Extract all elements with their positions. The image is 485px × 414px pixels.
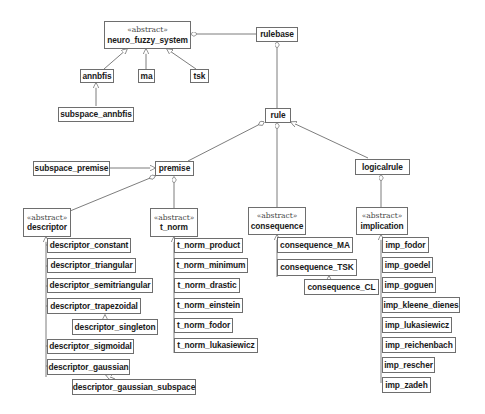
class-t-norm-drastic[interactable]: t_norm_drastic — [174, 278, 240, 293]
class-imp-lukasiewicz[interactable]: imp_lukasiewicz — [382, 317, 452, 333]
class-name: t_norm_lukasiewicz — [177, 341, 254, 349]
class-name: t_norm_einstein — [177, 301, 240, 309]
edge-annbfis-nfs — [104, 49, 127, 69]
class-name: imp_zadeh — [385, 381, 427, 389]
class-name: consequence — [251, 222, 303, 230]
class-imp-kleene-dienes[interactable]: imp_kleene_dienes — [382, 297, 460, 313]
class-name: descriptor_sigmoidal — [49, 342, 132, 350]
class-name: consequence_MA — [280, 241, 350, 249]
class-name: descriptor_semitriangular — [50, 281, 151, 289]
class-name: consequence_TSK — [280, 263, 353, 271]
class-name: t_norm_minimum — [177, 261, 246, 269]
class-t-norm-einstein[interactable]: t_norm_einstein — [174, 298, 243, 313]
stereotype-label: «abstract» — [154, 214, 195, 222]
class-consequence[interactable]: «abstract» consequence — [248, 207, 306, 235]
class-tsk[interactable]: tsk — [190, 69, 209, 83]
class-name: implication — [360, 222, 403, 230]
class-name: imp_kleene_dienes — [383, 301, 458, 309]
stereotype-label: «abstract» — [257, 212, 298, 220]
edge-tsk-nfs — [167, 49, 196, 69]
class-imp-goedel[interactable]: imp_goedel — [382, 257, 433, 273]
edge-logicalrule-rule — [291, 122, 368, 158]
class-name: descriptor_gaussian_subspace — [73, 383, 195, 391]
class-name: subspace_premise — [35, 164, 109, 172]
class-name: descriptor_trapezoidal — [50, 302, 138, 310]
class-logicalrule[interactable]: logicalrule — [355, 159, 410, 175]
class-name: rulebase — [260, 30, 294, 38]
class-name: imp_goguen — [385, 281, 434, 289]
class-descriptor-triangular[interactable]: descriptor_triangular — [47, 258, 136, 273]
class-t-norm-product[interactable]: t_norm_product — [174, 238, 243, 253]
class-t-norm-minimum[interactable]: t_norm_minimum — [174, 258, 248, 273]
class-descriptor[interactable]: «abstract» descriptor — [23, 208, 71, 237]
class-implication[interactable]: «abstract» implication — [356, 207, 408, 235]
class-descriptor-singleton[interactable]: descriptor_singleton — [72, 319, 158, 335]
class-t-norm[interactable]: «abstract» t_norm — [150, 208, 198, 237]
class-consequence-cl[interactable]: consequence_CL — [304, 279, 379, 295]
stereotype-label: «abstract» — [362, 212, 403, 220]
class-name: premise — [159, 164, 190, 172]
edge-premise-descriptor — [70, 176, 155, 211]
class-name: annbfis — [82, 72, 111, 80]
class-descriptor-constant[interactable]: descriptor_constant — [47, 238, 131, 253]
class-name: t_norm_drastic — [177, 281, 236, 289]
stereotype-label: «abstract» — [27, 214, 68, 222]
class-descriptor-gaussian-subspace[interactable]: descriptor_gaussian_subspace — [72, 379, 196, 395]
class-imp-reichenbach[interactable]: imp_reichenbach — [382, 337, 456, 353]
class-imp-zadeh[interactable]: imp_zadeh — [382, 377, 431, 393]
class-rule[interactable]: rule — [265, 108, 291, 123]
class-descriptor-sigmoidal[interactable]: descriptor_sigmoidal — [47, 339, 134, 354]
class-name: rule — [271, 111, 286, 119]
class-consequence-tsk[interactable]: consequence_TSK — [277, 259, 357, 276]
class-imp-goguen[interactable]: imp_goguen — [382, 277, 436, 293]
class-consequence-ma[interactable]: consequence_MA — [277, 237, 353, 253]
class-name: ma — [141, 72, 153, 80]
class-t-norm-fodor[interactable]: t_norm_fodor — [174, 318, 233, 333]
class-name: imp_fodor — [385, 241, 425, 249]
class-descriptor-semitriangular[interactable]: descriptor_semitriangular — [47, 278, 153, 293]
class-name: imp_reichenbach — [385, 341, 452, 349]
class-premise[interactable]: premise — [155, 161, 194, 176]
class-name: subspace_annbfis — [60, 110, 131, 118]
class-name: imp_rescher — [384, 361, 433, 369]
class-t-norm-lukasiewicz[interactable]: t_norm_lukasiewicz — [174, 338, 258, 353]
class-annbfis[interactable]: annbfis — [80, 69, 114, 83]
class-name: imp_goedel — [385, 261, 431, 269]
class-subspace-annbfis[interactable]: subspace_annbfis — [58, 107, 134, 122]
class-name: descriptor — [27, 223, 67, 231]
class-descriptor-trapezoidal[interactable]: descriptor_trapezoidal — [47, 298, 141, 314]
class-name: descriptor_constant — [50, 241, 129, 249]
class-imp-fodor[interactable]: imp_fodor — [382, 237, 429, 253]
stereotype-label: «abstract» — [127, 26, 168, 34]
class-neuro-fuzzy-system[interactable]: «abstract» neuro_fuzzy_system — [104, 21, 191, 49]
class-name: descriptor_gaussian — [48, 363, 128, 371]
class-name: logicalrule — [362, 163, 403, 171]
class-ma[interactable]: ma — [138, 69, 155, 83]
class-name: imp_lukasiewicz — [385, 321, 449, 329]
class-name: neuro_fuzzy_system — [107, 36, 188, 44]
class-descriptor-gaussian[interactable]: descriptor_gaussian — [47, 359, 130, 375]
class-rulebase[interactable]: rulebase — [256, 27, 298, 42]
class-subspace-premise[interactable]: subspace_premise — [33, 161, 110, 176]
class-name: descriptor_singleton — [75, 323, 156, 331]
class-name: t_norm — [160, 223, 188, 231]
class-name: tsk — [194, 72, 206, 80]
edge-rule-premise — [188, 122, 264, 161]
class-name: t_norm_product — [177, 241, 240, 249]
class-name: t_norm_fodor — [177, 321, 230, 329]
class-imp-rescher[interactable]: imp_rescher — [382, 357, 435, 373]
class-name: consequence_CL — [308, 283, 376, 291]
class-name: descriptor_triangular — [50, 261, 132, 269]
